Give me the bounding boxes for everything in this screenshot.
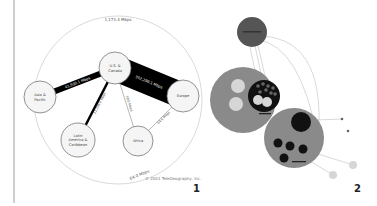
figure-stage: 1,173.4 Mbps64.0 Mbps352,299.1 Mbps41,93… [0, 0, 377, 206]
cluster-top-label [243, 31, 261, 33]
bubble-dot [271, 86, 275, 90]
bubble-dot [269, 91, 273, 95]
bubble-dot [261, 82, 265, 86]
bubble-dot [266, 84, 270, 88]
bubble-dot [256, 84, 260, 88]
cluster-a-label [259, 113, 271, 114]
cluster-b-label [292, 161, 306, 162]
outlier-dot [341, 118, 344, 121]
bubble-light [262, 97, 272, 107]
panel-label-1: 1 [193, 183, 200, 194]
bubble-dark [286, 142, 295, 151]
outlier-bubble [329, 171, 337, 179]
bubble-dark [280, 154, 289, 163]
bubble-dot [273, 92, 277, 96]
copyright-text: © 2001 TeleGeography, Inc. [145, 176, 201, 181]
outlier-dot [347, 130, 350, 133]
bubble-light [229, 97, 243, 111]
bubble-light [231, 79, 245, 93]
bubble-light [253, 95, 263, 105]
bubble-dark [299, 145, 308, 154]
outlier-bubble [349, 161, 357, 169]
bubble-dark-large [291, 112, 311, 132]
bubble-dot [264, 88, 268, 92]
bubble-dot [258, 90, 262, 94]
panel-label-2: 2 [354, 183, 361, 194]
bubble-dark [274, 139, 283, 148]
